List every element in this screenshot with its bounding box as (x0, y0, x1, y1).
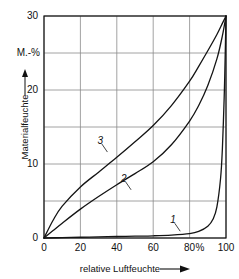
curve-label-3: 3 (97, 136, 103, 146)
label-leader-lines (102, 144, 180, 231)
y-tick-label: 30 (0, 11, 38, 21)
x-tick-label: 40 (103, 243, 131, 253)
curve-label-2: 2 (121, 174, 127, 184)
x-tick-label: 60 (139, 243, 167, 253)
y-axis-arrow-icon (20, 69, 31, 95)
x-axis-title: relative Luftfeuchte (40, 263, 230, 275)
y-axis-title-text: Materialfeuchte (19, 95, 30, 160)
y-axis-title: Materialfeuchte (19, 49, 31, 179)
curve-label-1: 1 (170, 215, 176, 225)
x-axis-title-text: relative Luftfeuchte (80, 263, 160, 274)
x-axis-unit-label: % (193, 243, 207, 253)
moisture-sorption-chart: 0102030 020406080100 M.-% % 123 Material… (0, 0, 239, 279)
x-tick-label: 20 (66, 243, 94, 253)
x-tick-label: 0 (30, 243, 58, 253)
x-tick-label: 100 (212, 243, 239, 253)
x-axis-arrow-icon (160, 264, 190, 275)
grid-lines (44, 16, 226, 238)
y-tick-label: 0 (0, 233, 38, 243)
